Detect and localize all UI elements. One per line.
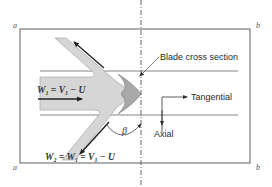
corner-label-bottom-left: a xyxy=(13,163,17,172)
corner-label-top-right: b xyxy=(256,21,260,30)
inlet-velocity-equation: W1 = V1 − U xyxy=(37,85,86,96)
blade-cross-section xyxy=(118,74,141,114)
tangential-label: Tangential xyxy=(191,92,232,102)
blade-label-leader xyxy=(140,57,159,76)
corner-label-top-left: a xyxy=(13,21,17,30)
tangential-axis xyxy=(162,97,187,132)
beta-label: β xyxy=(121,125,127,136)
blade-diagram: Blade cross section Tangential Axial β W… xyxy=(0,0,272,187)
outlet-velocity-equation: W2 = W1 = V1 − U xyxy=(45,152,116,163)
axial-label: Axial xyxy=(154,129,174,139)
corner-label-bottom-right: b xyxy=(256,163,260,172)
blade-cross-section-label: Blade cross section xyxy=(160,52,238,62)
